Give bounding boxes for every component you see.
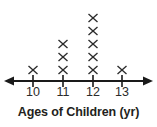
x-marker-icon	[55, 50, 71, 63]
axis-title: Ages of Children (yr)	[0, 104, 157, 120]
axis-tick-labels: 10111213	[0, 85, 157, 101]
axis-tick-label-11: 11	[48, 85, 78, 100]
marker-stack-12	[85, 11, 101, 76]
x-marker-icon	[55, 37, 71, 50]
plot-area	[0, 0, 157, 76]
x-marker-icon	[85, 11, 101, 24]
x-marker-icon	[85, 50, 101, 63]
axis-tick-label-12: 12	[78, 85, 108, 100]
x-marker-icon	[85, 37, 101, 50]
axis-tick-label-10: 10	[18, 85, 48, 100]
x-marker-icon	[85, 24, 101, 37]
axis-tick-label-13: 13	[107, 85, 137, 100]
dot-plot-figure: 10111213 Ages of Children (yr)	[0, 0, 157, 127]
